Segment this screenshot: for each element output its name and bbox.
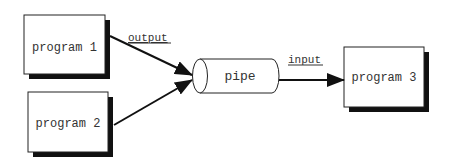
program-1-label: program 1 bbox=[32, 41, 97, 55]
program-2-label: program 2 bbox=[36, 117, 101, 131]
input-label: input bbox=[288, 54, 321, 66]
program-3-box: program 3 bbox=[344, 47, 429, 112]
program-2-box: program 2 bbox=[28, 92, 113, 157]
program-1-box: program 1 bbox=[24, 15, 110, 79]
output-label: output bbox=[128, 32, 168, 44]
pipe-cylinder: pipe bbox=[193, 59, 280, 93]
pipe-label: pipe bbox=[224, 69, 255, 84]
pipe-diagram: program 1 program 2 pipe program 3 outpu… bbox=[0, 0, 454, 167]
program-3-label: program 3 bbox=[352, 71, 417, 85]
arrow-program2-to-pipe bbox=[114, 80, 192, 125]
